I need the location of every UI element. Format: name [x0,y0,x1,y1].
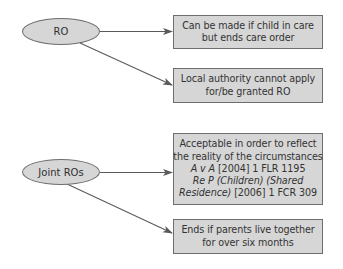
case-name-a-v-a: A v A [191,163,215,174]
box-acceptable-reality: Acceptable in order to reflect the reali… [173,133,323,205]
case-citation-a-v-a: A v A [2004] 1 FLR 1195 [173,163,322,175]
diagram: RO Joint ROs Can be made if child in car… [0,0,343,269]
node-ro: RO [22,18,100,45]
box-local-authority-line-1: Local authority cannot apply [181,73,315,85]
box-ends-line-1: Ends if parents live together [181,224,314,236]
case-name-re-p-line-1: Re P (Children) (Shared [173,175,322,187]
box-care-order: Can be made if child in care but ends ca… [173,15,323,49]
box-local-authority-line-2: for/be granted RO [181,86,315,98]
node-joint-ros-label: Joint ROs [38,167,83,178]
case-ref-re-p: [2006] 1 FCR 309 [231,187,317,198]
arrow-ro-to-box2 [80,43,172,85]
case-name-re-p-line-2: Residence) [179,187,231,198]
box-care-order-line-1: Can be made if child in care [182,20,314,32]
node-ro-label: RO [54,26,69,37]
box-acceptable-line-1: Acceptable in order to reflect [173,138,322,150]
box-ends-cohabit: Ends if parents live together for over s… [173,219,323,254]
case-ref-a-v-a: [2004] 1 FLR 1195 [215,163,305,174]
arrow-joint-ros-to-box4 [67,184,172,233]
box-care-order-line-2: but ends care order [182,32,314,44]
box-acceptable-line-2: the reality of the circumstances [173,151,322,163]
box-local-authority: Local authority cannot apply for/be gran… [173,68,323,103]
case-citation-re-p: Residence) [2006] 1 FCR 309 [173,187,322,199]
node-joint-ros: Joint ROs [22,159,100,185]
box-ends-line-2: for over six months [181,237,314,249]
